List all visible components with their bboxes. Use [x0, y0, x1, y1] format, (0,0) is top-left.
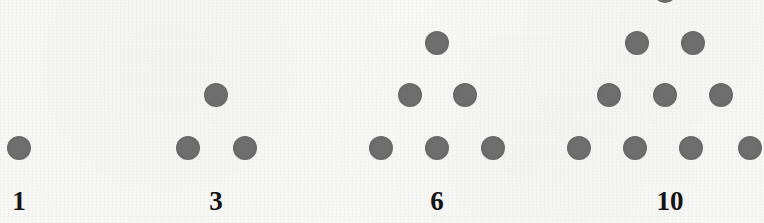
triangular-numbers-figure: 13610 [0, 0, 764, 223]
dot [653, 83, 677, 107]
dot [625, 31, 649, 55]
dot [709, 83, 733, 107]
dot [623, 136, 647, 160]
dot-group-10: 10 [0, 0, 764, 223]
dot [567, 136, 591, 160]
group-label-10: 10 [657, 188, 684, 215]
dot [679, 136, 703, 160]
dot [738, 136, 762, 160]
dot [653, 0, 677, 3]
dot [681, 31, 705, 55]
dot [597, 83, 621, 107]
